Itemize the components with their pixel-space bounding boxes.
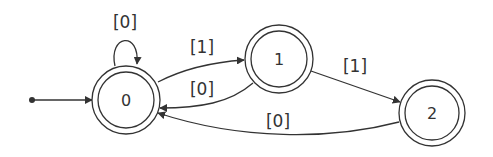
- edge-label: [0]: [113, 12, 137, 32]
- state-node-2[interactable]: 2: [399, 80, 465, 146]
- edge-label: [0]: [190, 79, 214, 99]
- edge-s0-s1[interactable]: [1]: [158, 37, 244, 82]
- edge-s0-s0[interactable]: [0]: [113, 12, 137, 66]
- state-node-1[interactable]: 1: [245, 25, 313, 93]
- state-node-0[interactable]: 0: [92, 66, 160, 134]
- edge-s1-s0[interactable]: [0]: [160, 79, 253, 108]
- state-label: 0: [121, 91, 131, 110]
- edge-s2-s0[interactable]: [0]: [158, 111, 399, 135]
- state-label: 1: [274, 50, 284, 69]
- edge-label: [1]: [343, 56, 367, 76]
- initial-arrow: [29, 97, 92, 103]
- state-diagram: [0] [1] [0] [1] [0] 0 1 2: [0, 0, 493, 157]
- edge-label: [1]: [190, 37, 214, 57]
- state-label: 2: [427, 104, 437, 123]
- edge-s1-s2[interactable]: [1]: [311, 56, 400, 102]
- edge-label: [0]: [266, 111, 290, 131]
